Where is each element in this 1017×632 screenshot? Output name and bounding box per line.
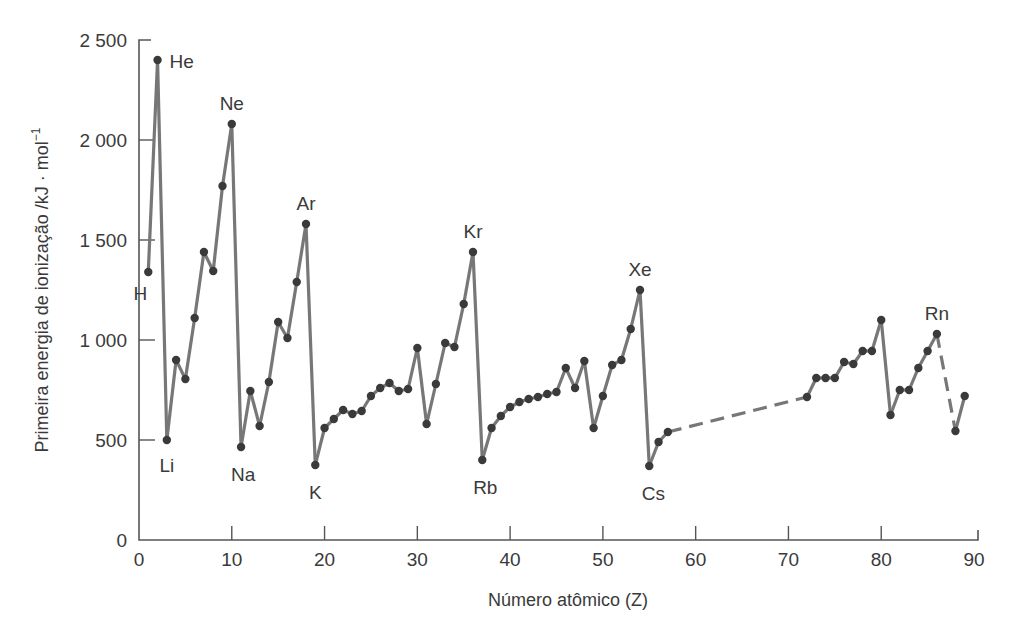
data-point [840,358,848,366]
data-point [218,182,226,190]
data-point [534,393,542,401]
data-point [302,220,310,228]
line-segment [185,318,194,379]
data-point [330,415,338,423]
data-point [951,427,959,435]
x-axis-title: Número atômico (Z) [488,590,648,610]
line-segment [306,224,315,465]
line-segment [881,320,890,415]
data-point [200,248,208,256]
y-tick-label: 1 000 [79,330,127,351]
data-point [228,120,236,128]
element-label-li: Li [159,455,174,476]
x-tick-label: 50 [592,549,613,570]
data-point [320,424,328,432]
element-label-he: He [170,51,194,72]
data-point [376,384,384,392]
line-segment [436,343,445,384]
data-point [395,387,403,395]
data-point [923,347,931,355]
dashed-line-segment [668,397,807,432]
element-label-ar: Ar [297,193,317,214]
data-point [274,318,282,326]
line-segment [427,384,436,424]
x-tick-label: 30 [407,549,428,570]
line-segment [454,304,463,347]
line-segment [464,252,473,304]
data-point [868,347,876,355]
element-label-ne: Ne [220,93,244,114]
element-label-cs: Cs [642,483,665,504]
data-point [293,278,301,286]
y-tick-label: 1 500 [79,230,127,251]
data-point [487,424,495,432]
data-point [933,330,941,338]
x-tick-label: 70 [778,549,799,570]
data-point [552,388,560,396]
x-tick-label: 10 [221,549,242,570]
x-tick-label: 60 [685,549,706,570]
y-axis-title-superscript: −1 [29,127,43,141]
data-point [914,364,922,372]
data-point [821,374,829,382]
line-segment [955,396,964,431]
data-point [385,379,393,387]
x-tick-label: 0 [134,549,145,570]
line-segment [158,60,167,440]
y-tick-label: 2 000 [79,130,127,151]
data-point [209,267,217,275]
line-segment [213,186,222,271]
data-point [144,268,152,276]
y-axis-title: Primeira energia de ionização /kJ · mol−… [29,127,52,452]
data-point [478,456,486,464]
element-label-h: H [133,283,147,304]
data-point [413,344,421,352]
data-point [469,248,477,256]
element-label-na: Na [231,464,256,485]
data-point [589,424,597,432]
line-segment [287,282,296,338]
data-point [636,286,644,294]
line-segment [315,428,324,465]
data-point [367,392,375,400]
x-tick-label: 90 [963,549,984,570]
line-segment [640,290,649,466]
element-label-k: K [309,482,322,503]
x-tick-label: 40 [500,549,521,570]
y-tick-label: 0 [116,530,127,551]
line-segment [250,391,259,426]
data-point [617,356,625,364]
element-label-rn: Rn [925,303,949,324]
data-point [562,364,570,372]
data-point [246,387,254,395]
data-point [181,375,189,383]
element-labels: HHeLiNeNaArKKrRbXeCsRn [133,51,949,504]
line-segment [260,382,269,426]
y-axis-title-main: Primeira energia de ionização /kJ · mol [32,141,52,452]
line-segment [241,391,250,447]
y-tick-label: 2 500 [79,30,127,51]
ionization-energy-chart: 05001 0001 5002 0002 5000102030405060708… [0,0,1017,632]
data-point [190,314,198,322]
line-segment [584,361,593,428]
data-point [348,410,356,418]
data-point [524,395,532,403]
line-segment [408,348,417,389]
data-point [580,357,588,365]
axes: 05001 0001 5002 0002 5000102030405060708… [79,30,984,570]
element-label-rb: Rb [473,477,497,498]
data-point [311,461,319,469]
y-tick-label: 500 [95,430,127,451]
line-segment [621,329,630,360]
data-point [849,360,857,368]
data-point [357,407,365,415]
data-point [432,380,440,388]
data-point [886,411,894,419]
data-point [543,390,551,398]
dashed-line-segment [937,334,956,431]
data-point [153,56,161,64]
data-point [422,420,430,428]
line-segment [417,348,426,424]
data-point [237,443,245,451]
axis-lines [139,40,978,540]
